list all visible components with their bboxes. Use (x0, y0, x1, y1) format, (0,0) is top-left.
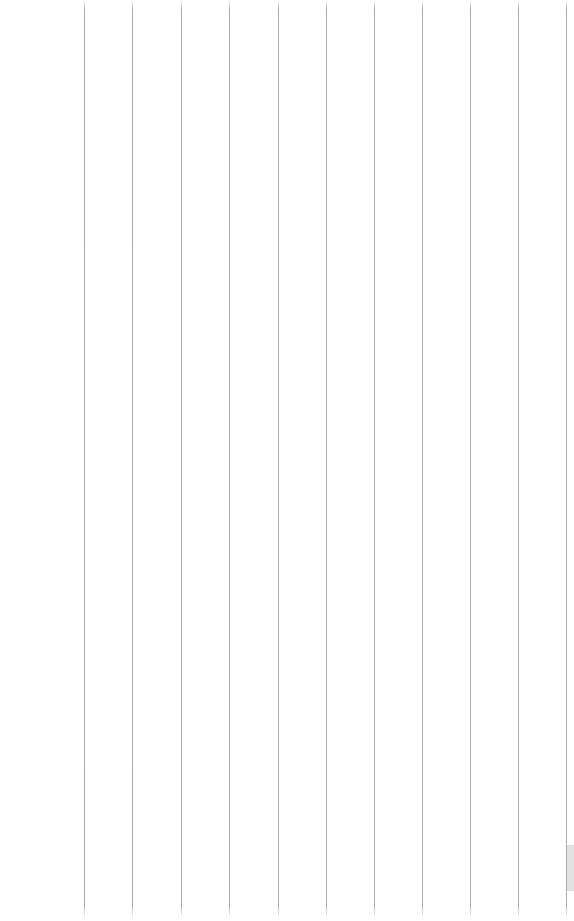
vertical-scrollbar-thumb[interactable] (567, 845, 574, 891)
gridline-7 (374, 0, 375, 916)
gridline-9 (470, 0, 471, 916)
gridline-6 (326, 0, 327, 916)
gridline-10 (518, 0, 519, 916)
gridline-canvas (0, 0, 574, 921)
gridline-1 (84, 0, 85, 916)
gridline-5 (278, 0, 279, 916)
gridline-3 (181, 0, 182, 916)
app-window (0, 0, 574, 921)
gridline-2 (132, 0, 133, 916)
gridline-4 (229, 0, 230, 916)
vertical-scrollbar-track[interactable] (567, 0, 574, 921)
page-content (0, 0, 574, 921)
gridline-8 (422, 0, 423, 916)
